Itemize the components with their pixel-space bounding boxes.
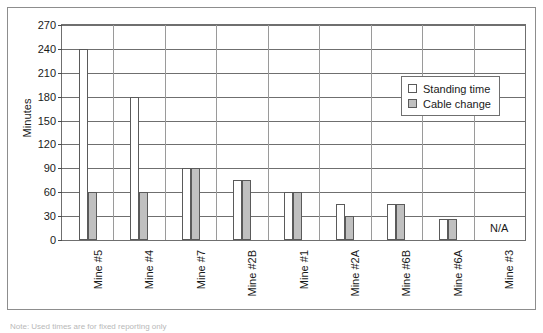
bar-group <box>319 25 370 240</box>
x-tick-label-wrap: Mine #2B <box>246 250 258 296</box>
category-separator <box>474 25 475 240</box>
bar-standing <box>387 204 396 240</box>
y-tick-label: 90 <box>44 162 56 174</box>
y-axis-title: Minutes <box>21 73 33 163</box>
x-tick-label: Mine #7 <box>195 250 207 289</box>
y-tick-label: 120 <box>38 138 56 150</box>
x-tick-label-wrap: Mine #3 <box>503 250 515 289</box>
y-tick-mark <box>58 240 62 241</box>
legend-swatch-cable-change-icon <box>408 99 417 108</box>
category-separator <box>216 25 217 240</box>
na-annotation: N/A <box>474 25 525 240</box>
x-tick-label-wrap: Mine #6A <box>452 250 464 296</box>
bar-group <box>422 25 473 240</box>
bar-group <box>216 25 267 240</box>
category-separator <box>165 25 166 240</box>
x-tick-label: Mine #1 <box>298 250 310 289</box>
x-tick-label-wrap: Mine #6B <box>400 250 412 296</box>
bar-group <box>371 25 422 240</box>
bars-layer: N/A <box>62 25 525 240</box>
x-tick-label: Mine #2A <box>349 250 361 296</box>
legend-item-cable-change: Cable change <box>408 96 491 111</box>
bar-standing <box>233 180 242 240</box>
category-separator <box>268 25 269 240</box>
y-tick-label: 0 <box>50 234 56 246</box>
x-tick-label-wrap: Mine #4 <box>143 250 155 289</box>
y-tick-label: 150 <box>38 115 56 127</box>
plot-area: 0306090120150180210240270 N/A <box>61 24 526 241</box>
bar-cable <box>448 219 457 241</box>
bar-standing <box>439 219 448 241</box>
x-tick-label-wrap: Mine #1 <box>298 250 310 289</box>
legend-item-standing-time: Standing time <box>408 81 491 96</box>
x-tick-label-wrap: Mine #5 <box>92 250 104 289</box>
legend-label-standing-time: Standing time <box>423 83 490 95</box>
figure-caption: Note: Used times are for fixed reporting… <box>10 322 530 333</box>
category-separator <box>422 25 423 240</box>
y-tick-label: 180 <box>38 91 56 103</box>
na-annotation-label: N/A <box>490 222 508 234</box>
legend-label-cable-change: Cable change <box>423 98 491 110</box>
bar-cable <box>293 192 302 240</box>
bar-standing <box>336 204 345 240</box>
y-tick-label: 240 <box>38 43 56 55</box>
category-separator <box>319 25 320 240</box>
bar-group <box>113 25 164 240</box>
x-tick-label-wrap: Mine #7 <box>195 250 207 289</box>
x-tick-label-wrap: Mine #2A <box>349 250 361 296</box>
category-separator <box>371 25 372 240</box>
chart-figure-frame: Minutes 0306090120150180210240270 N/A Mi… <box>7 7 536 310</box>
bar-cable <box>345 216 354 240</box>
x-axis-labels: Mine #5Mine #4Mine #7Mine #2BMine #1Mine… <box>61 244 526 306</box>
bar-group <box>62 25 113 240</box>
y-tick-label: 270 <box>38 19 56 31</box>
x-tick-label: Mine #5 <box>92 250 104 289</box>
y-tick-label: 60 <box>44 186 56 198</box>
bar-cable <box>191 168 200 240</box>
chart-legend: Standing time Cable change <box>401 76 500 116</box>
y-tick-label: 210 <box>38 67 56 79</box>
x-tick-label: Mine #2B <box>246 250 258 296</box>
y-tick-label: 30 <box>44 210 56 222</box>
bar-standing <box>79 49 88 240</box>
bar-standing <box>182 168 191 240</box>
category-separator <box>113 25 114 240</box>
legend-swatch-standing-time-icon <box>408 84 417 93</box>
bar-cable <box>242 180 251 240</box>
x-tick-label: Mine #4 <box>143 250 155 289</box>
bar-standing <box>130 97 139 240</box>
bar-group <box>165 25 216 240</box>
bar-cable <box>396 204 405 240</box>
bar-cable <box>88 192 97 240</box>
bar-group <box>268 25 319 240</box>
x-tick-label: Mine #6B <box>400 250 412 296</box>
bar-standing <box>284 192 293 240</box>
x-tick-label: Mine #6A <box>452 250 464 296</box>
x-tick-label: Mine #3 <box>503 250 515 289</box>
bar-cable <box>139 192 148 240</box>
